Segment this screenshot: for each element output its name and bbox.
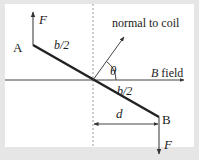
coil-torque-diagram: A B F F b/2 b/2 normal to coil θ B field…: [0, 0, 199, 160]
label-point-a: A: [13, 40, 23, 55]
label-half-length-bottom: b/2: [117, 84, 132, 98]
label-point-b: B: [162, 112, 171, 127]
label-b-field: B field: [151, 66, 183, 80]
label-force-bottom: F: [163, 137, 173, 152]
label-normal: normal to coil: [112, 16, 180, 30]
label-theta: θ: [110, 63, 117, 78]
label-distance: d: [116, 106, 123, 121]
label-force-top: F: [38, 12, 48, 27]
label-half-length-top: b/2: [54, 38, 69, 52]
